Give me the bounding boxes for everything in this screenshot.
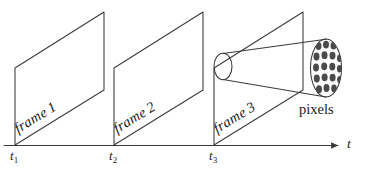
tick-label-t3: t3 — [209, 148, 217, 165]
tick-label-t2: t2 — [109, 148, 117, 165]
tick-label-t1: t1 — [10, 148, 18, 165]
tick-t2-subscript: 2 — [113, 155, 118, 165]
diagram-vector-layer — [0, 0, 374, 174]
pixels-label: pixels — [299, 101, 334, 118]
axis-label-t: t — [347, 136, 351, 152]
tick-t1-subscript: 1 — [14, 155, 19, 165]
tick-t3-subscript: 3 — [213, 155, 218, 165]
diagram-canvas: frame1 frame2 frame3 t1 t2 t3 t pixels — [0, 0, 374, 174]
